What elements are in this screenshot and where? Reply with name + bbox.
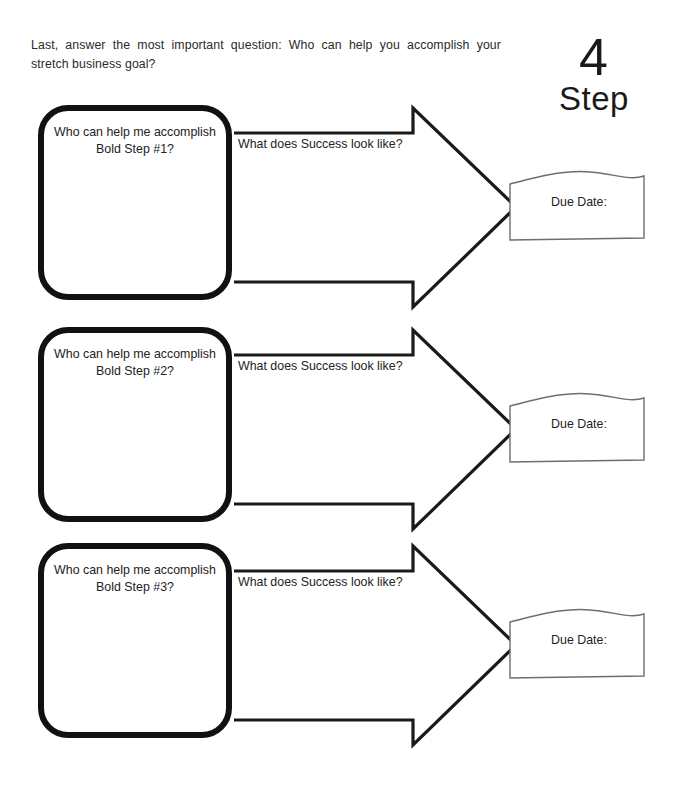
who-can-help-box[interactable]: Who can help me accomplish Bold Step #3? [38,543,232,738]
who-can-help-label: Who can help me accomplish Bold Step #1? [50,124,220,158]
due-date-label: Due Date: [515,417,643,431]
worksheet-row: Who can help me accomplish Bold Step #1?… [0,100,677,315]
success-arrow [228,322,528,537]
step-number: 4 [524,34,664,80]
success-arrow [228,100,528,315]
success-question-label: What does Success look like? [238,136,403,152]
success-question-label: What does Success look like? [238,574,403,590]
worksheet-row: Who can help me accomplish Bold Step #2?… [0,322,677,537]
instruction-paragraph: Last, answer the most important question… [31,36,501,74]
worksheet-row: Who can help me accomplish Bold Step #3?… [0,538,677,753]
who-can-help-label: Who can help me accomplish Bold Step #2? [50,346,220,380]
success-question-label: What does Success look like? [238,358,403,374]
worksheet-page: Last, answer the most important question… [0,0,677,793]
due-date-label: Due Date: [515,195,643,209]
due-date-label: Due Date: [515,633,643,647]
who-can-help-box[interactable]: Who can help me accomplish Bold Step #1? [38,105,232,300]
who-can-help-box[interactable]: Who can help me accomplish Bold Step #2? [38,327,232,522]
who-can-help-label: Who can help me accomplish Bold Step #3? [50,562,220,596]
success-arrow [228,538,528,753]
